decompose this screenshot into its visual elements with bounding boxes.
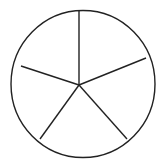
sector-divider-line-3	[79, 85, 127, 139]
sector-divider-line-4	[40, 85, 79, 139]
sector-divider-line-5	[21, 66, 79, 85]
sector-divider-line-2	[79, 58, 146, 85]
pie-divided-circle	[0, 0, 160, 168]
sector-dividers	[21, 10, 146, 139]
